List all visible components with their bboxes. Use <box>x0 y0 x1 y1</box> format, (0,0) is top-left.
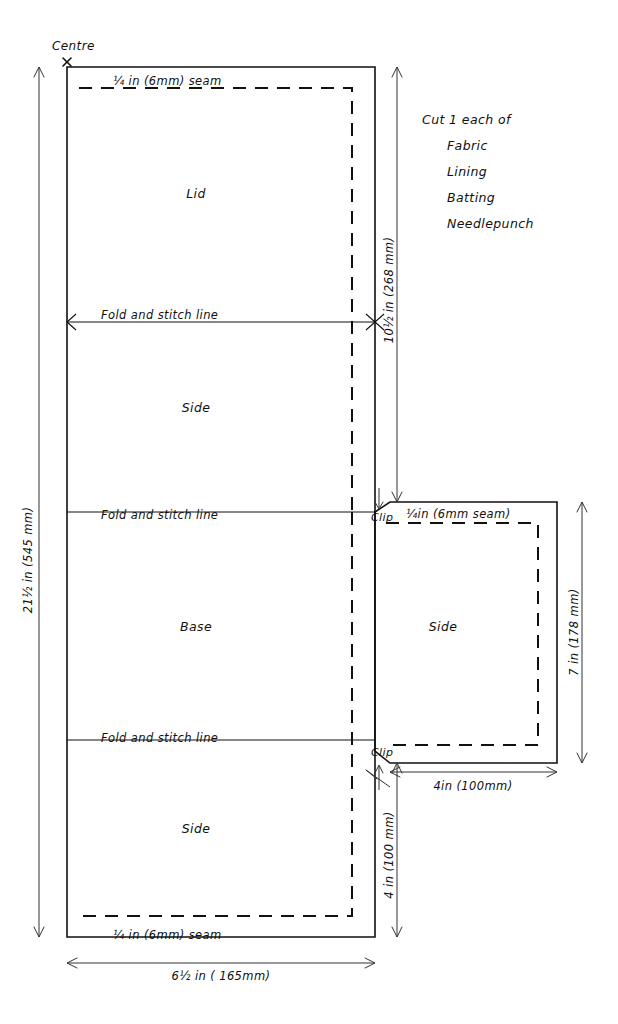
cut-note-heading: Cut 1 each of <box>422 112 512 127</box>
clip-leader-lower-diag <box>366 770 390 787</box>
cut-note-material-1: Lining <box>447 164 487 179</box>
clip-label-upper: Clip <box>371 511 393 524</box>
seam-label-top: ¼ in (6mm) seam <box>113 74 222 88</box>
fold-line-label-1: Fold and stitch line <box>101 308 218 322</box>
pattern-canvas: Centre Lid Side Base Side Side Fold and … <box>0 0 618 1024</box>
panel-label-lid: Lid <box>186 186 206 201</box>
seam-label-bottom: ¼ in (6mm) seam <box>113 928 222 942</box>
clip-label-lower: Clip <box>371 746 393 759</box>
fold-line-label-2: Fold and stitch line <box>101 508 218 522</box>
fold-line-label-3: Fold and stitch line <box>101 731 218 745</box>
panel-label-side-right: Side <box>429 619 458 634</box>
main-body-outline <box>67 67 375 937</box>
seam-allowance-main-lower <box>79 512 352 916</box>
panel-label-side-upper: Side <box>182 400 211 415</box>
cut-note-material-3: Needlepunch <box>447 216 534 231</box>
seam-allowance-main <box>79 88 352 512</box>
dim-side-right-width-label: 4in (100mm) <box>433 779 512 793</box>
centre-label: Centre <box>52 39 95 53</box>
dim-overall-width-label: 6½ in ( 165mm) <box>172 969 271 983</box>
seam-label-right: ¼in (6mm seam) <box>406 507 511 521</box>
cut-note-material-2: Batting <box>447 190 495 205</box>
dim-overall-height-label: 21½ in (545 mm) <box>21 507 35 614</box>
dim-lid-to-base-label: 10½ in (268 mm) <box>382 237 396 344</box>
dim-lower-side-height-label: 4 in (100 mm) <box>382 811 396 898</box>
cut-note-material-0: Fabric <box>447 138 488 153</box>
seam-allowance-side-right <box>386 523 538 745</box>
pattern-diagram: Centre Lid Side Base Side Side Fold and … <box>0 0 618 1024</box>
panel-label-side-lower: Side <box>182 821 211 836</box>
dim-side-right-height-label: 7 in (178 mm) <box>567 588 581 675</box>
panel-label-base: Base <box>180 619 212 634</box>
side-right-outline <box>375 502 557 763</box>
